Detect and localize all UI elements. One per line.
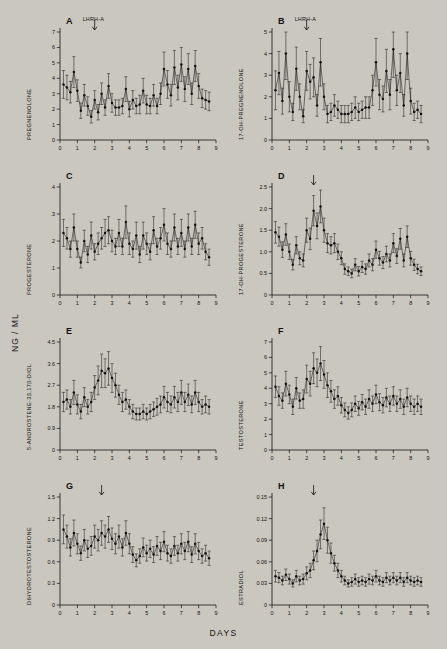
panel-F: 012345678901234567FTESTOSTERONE: [226, 324, 436, 476]
y-axis-label-B: 17-OH-PREGNENOLONE: [238, 68, 244, 140]
svg-text:1: 1: [288, 300, 291, 306]
svg-text:3: 3: [264, 401, 267, 407]
svg-text:9: 9: [215, 300, 218, 306]
svg-text:8: 8: [409, 455, 412, 461]
svg-text:2: 2: [93, 300, 96, 306]
y-axis-label-G: DIHYDROTESTOSTERONE: [26, 527, 32, 605]
svg-text:0: 0: [271, 145, 274, 151]
svg-text:0: 0: [52, 447, 55, 453]
svg-text:3: 3: [323, 610, 326, 616]
svg-text:1: 1: [264, 115, 267, 121]
svg-text:5: 5: [145, 610, 148, 616]
svg-text:9: 9: [427, 300, 430, 306]
svg-text:5: 5: [357, 145, 360, 151]
figure-x-axis-title: DAYS: [0, 628, 447, 638]
svg-text:2: 2: [305, 610, 308, 616]
svg-text:0: 0: [59, 145, 62, 151]
svg-text:8: 8: [409, 145, 412, 151]
svg-text:9: 9: [215, 145, 218, 151]
svg-text:1: 1: [264, 432, 267, 438]
figure-sheet: NG / ML 012345678901234567ALHRH-APREGNEN…: [0, 0, 447, 649]
svg-text:4: 4: [340, 145, 343, 151]
svg-text:9: 9: [427, 145, 430, 151]
svg-text:3: 3: [323, 300, 326, 306]
svg-text:0: 0: [59, 455, 62, 461]
svg-text:5: 5: [357, 610, 360, 616]
svg-text:0.6: 0.6: [48, 559, 56, 565]
svg-text:2: 2: [93, 610, 96, 616]
svg-text:0: 0: [271, 455, 274, 461]
svg-text:0.12: 0.12: [257, 516, 268, 522]
svg-text:0.5: 0.5: [260, 270, 268, 276]
panel-C: 01234567890.1.2.3.4CPROGESTERONE: [14, 169, 224, 321]
svg-text:1: 1: [52, 122, 55, 128]
svg-text:1: 1: [76, 455, 79, 461]
panel-letter-E: E: [66, 326, 72, 336]
svg-text:5: 5: [52, 60, 55, 66]
svg-text:6: 6: [375, 610, 378, 616]
panel-B: 0123456789012345BLHRH-A17-OH-PREGNENOLON…: [226, 14, 436, 166]
svg-text:.2: .2: [51, 238, 56, 244]
svg-text:1.0: 1.0: [260, 249, 268, 255]
svg-text:0: 0: [264, 447, 267, 453]
svg-text:6: 6: [375, 300, 378, 306]
svg-text:0: 0: [59, 610, 62, 616]
svg-text:0.03: 0.03: [257, 580, 268, 586]
panel-letter-H: H: [278, 481, 285, 491]
svg-text:5: 5: [357, 455, 360, 461]
svg-text:9: 9: [427, 610, 430, 616]
svg-text:4: 4: [340, 300, 343, 306]
svg-text:2: 2: [52, 106, 55, 112]
svg-text:1: 1: [76, 300, 79, 306]
svg-text:0.9: 0.9: [48, 537, 56, 543]
svg-text:5: 5: [145, 455, 148, 461]
svg-text:0: 0: [271, 610, 274, 616]
svg-text:6: 6: [163, 455, 166, 461]
svg-text:0.15: 0.15: [257, 494, 268, 500]
y-axis-label-H: ESTRADIOL: [238, 570, 244, 605]
svg-text:7: 7: [392, 145, 395, 151]
svg-text:4: 4: [264, 385, 267, 391]
svg-text:0: 0: [52, 292, 55, 298]
svg-text:7: 7: [180, 145, 183, 151]
svg-text:1: 1: [288, 610, 291, 616]
panel-letter-F: F: [278, 326, 284, 336]
panel-H: 012345678900.030.060.090.120.15HESTRADIO…: [226, 479, 436, 631]
svg-text:2: 2: [305, 145, 308, 151]
svg-text:5: 5: [145, 145, 148, 151]
svg-text:3: 3: [323, 455, 326, 461]
svg-text:6: 6: [375, 145, 378, 151]
svg-text:1.2: 1.2: [48, 516, 56, 522]
plot-D: 012345678900.51.01.52.02.5: [226, 169, 436, 321]
svg-text:3: 3: [111, 455, 114, 461]
svg-text:9: 9: [215, 610, 218, 616]
svg-text:7: 7: [52, 29, 55, 35]
svg-text:0: 0: [59, 300, 62, 306]
svg-text:4: 4: [340, 610, 343, 616]
svg-text:7: 7: [392, 610, 395, 616]
svg-text:2: 2: [264, 94, 267, 100]
svg-text:0.06: 0.06: [257, 559, 268, 565]
svg-text:6: 6: [163, 610, 166, 616]
svg-text:5: 5: [264, 29, 267, 35]
svg-text:3: 3: [323, 145, 326, 151]
panel-letter-A: A: [66, 16, 73, 26]
y-axis-label-E: 5-ANDROSTENE-3β,17β-DIOL: [26, 364, 32, 450]
svg-text:5: 5: [357, 300, 360, 306]
svg-text:1.5: 1.5: [260, 227, 268, 233]
svg-text:0: 0: [264, 292, 267, 298]
svg-text:2.7: 2.7: [48, 382, 56, 388]
svg-text:0: 0: [52, 137, 55, 143]
svg-text:7: 7: [392, 455, 395, 461]
svg-text:4: 4: [128, 455, 131, 461]
panel-A: 012345678901234567ALHRH-APREGNENOLONE: [14, 14, 224, 166]
svg-text:3: 3: [111, 300, 114, 306]
annotation-label-B: LHRH-A: [295, 16, 316, 22]
svg-text:9: 9: [215, 455, 218, 461]
plot-C: 01234567890.1.2.3.4: [14, 169, 224, 321]
panel-letter-C: C: [66, 171, 73, 181]
panel-letter-G: G: [66, 481, 73, 491]
svg-text:8: 8: [409, 300, 412, 306]
plot-A: 012345678901234567: [14, 14, 224, 166]
svg-text:1.5: 1.5: [48, 494, 56, 500]
